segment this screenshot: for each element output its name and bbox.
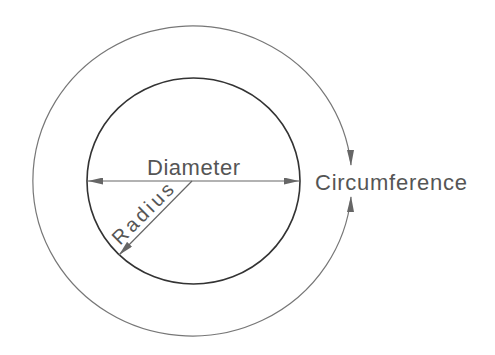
radius-label: Radius: [107, 178, 178, 249]
circumference-arrow-up-icon: [347, 196, 354, 212]
diameter-label: Diameter: [147, 155, 240, 180]
circle-diagram: Diameter Circumference Radius: [0, 0, 495, 355]
circumference-arrow-down-icon: [347, 150, 354, 166]
circumference-label: Circumference: [315, 170, 467, 195]
